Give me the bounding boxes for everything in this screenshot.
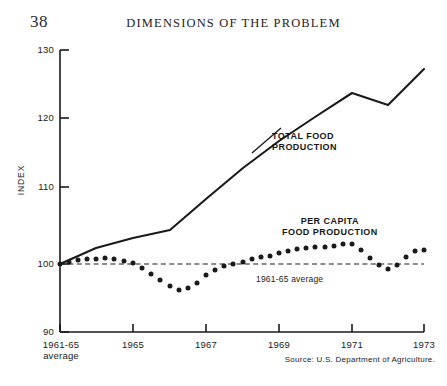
y-tick-label-110: 110 — [20, 181, 54, 192]
series-label-percapita-line1: PER CAPITA — [282, 216, 378, 227]
series-label-per-capita-food-production: PER CAPITA FOOD PRODUCTION — [282, 216, 378, 238]
chart-plot-area: INDEX 130 120 110 100 90 1961-65 average… — [0, 0, 447, 386]
y-tick-label-130: 130 — [20, 44, 54, 55]
reference-line-label: 1961-65 average — [256, 274, 323, 284]
x-tick-label-base-line1: 1961-65 — [32, 339, 90, 350]
x-tick-label-1971: 1971 — [332, 339, 372, 350]
chart-svg — [0, 0, 447, 386]
y-tick-label-90: 90 — [20, 326, 54, 337]
series-dots-per-capita-food-production — [58, 242, 427, 293]
source-note: Source: U.S. Department of Agriculture. — [285, 355, 435, 364]
x-tick-label-1965: 1965 — [113, 339, 153, 350]
x-tick-label-1969: 1969 — [259, 339, 299, 350]
series-label-total-line1: TOTAL FOOD — [272, 131, 337, 142]
series-label-total-food-production: TOTAL FOOD PRODUCTION — [272, 131, 337, 153]
y-axis-title: INDEX — [16, 150, 26, 210]
series-label-total-line2: PRODUCTION — [272, 142, 337, 153]
x-tick-label-1973: 1973 — [404, 339, 444, 350]
x-tick-label-base: 1961-65 average — [32, 339, 90, 361]
y-tick-label-100: 100 — [20, 258, 54, 269]
x-tick-label-1967: 1967 — [186, 339, 226, 350]
x-tick-label-base-line2: average — [32, 350, 90, 361]
y-tick-label-120: 120 — [20, 112, 54, 123]
series-label-percapita-line2: FOOD PRODUCTION — [282, 227, 378, 238]
